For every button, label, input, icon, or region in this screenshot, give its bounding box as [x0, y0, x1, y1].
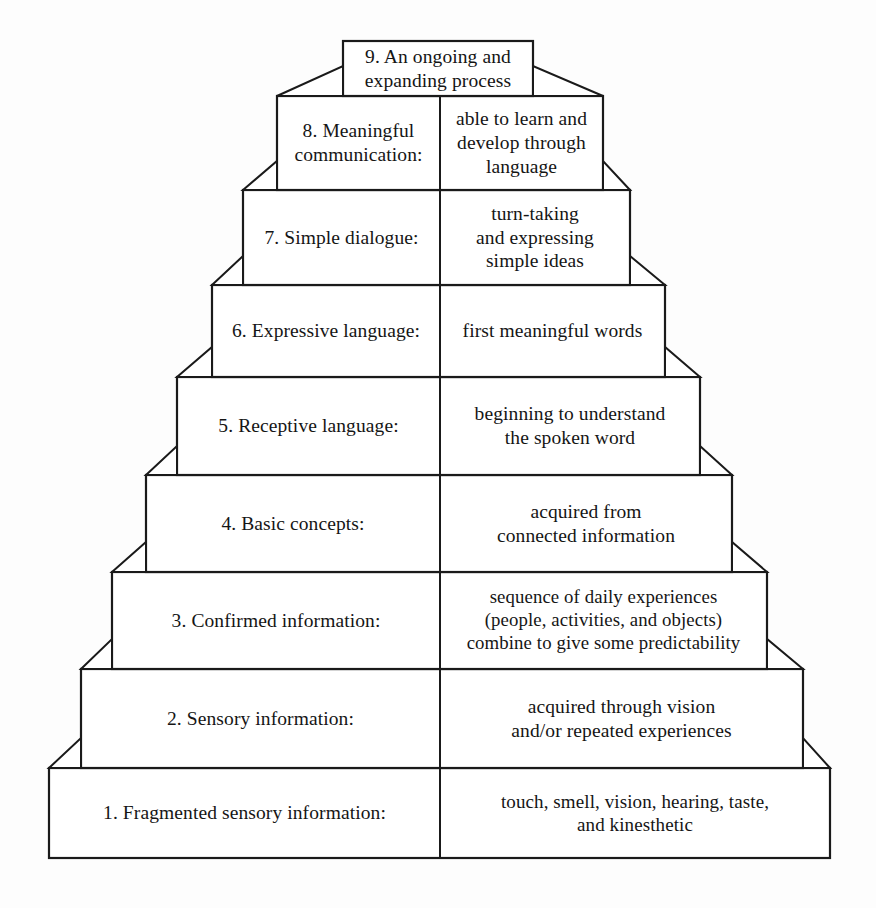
tier-2-label-text: 2. Sensory information: [87, 707, 434, 731]
tier-8-desc-line-3: language [445, 155, 598, 179]
tier-4-desc-line-2: connected information [445, 524, 727, 548]
tier-7-description: turn-taking and expressing simple ideas [440, 190, 630, 285]
tier-6-label: 6. Expressive language: [212, 285, 440, 377]
tier-2-desc-line-2: and/or repeated experiences [445, 719, 798, 743]
tier-5-desc-line-1: beginning to understand [445, 402, 695, 426]
tier-5-left-wedge [146, 446, 177, 475]
tier-3-right-wedge [767, 639, 803, 669]
tier-3-label: 3. Confirmed information: [112, 572, 440, 669]
tier-1-label: 1. Fragmented sensory information: [49, 768, 440, 858]
tier-7-desc-line-1: turn-taking [445, 202, 625, 226]
tier-8-label-line-2: communication: [283, 143, 434, 167]
tier-2-left-wedge [49, 738, 81, 768]
tier-4-description: acquired from connected information [440, 475, 732, 572]
tier-4-desc-line-1: acquired from [445, 500, 727, 524]
tier-2-desc-line-1: acquired through vision [445, 695, 798, 719]
tier-4-label: 4. Basic concepts: [146, 475, 440, 572]
tier-2-description: acquired through vision and/or repeated … [440, 669, 803, 768]
tier-5-description: beginning to understand the spoken word [440, 377, 700, 475]
tier-2-right-wedge [803, 738, 830, 768]
tier-9-right-wedge [533, 66, 603, 96]
tier-7-label: 7. Simple dialogue: [243, 190, 440, 285]
tier-8-label: 8. Meaningful communication: [277, 96, 440, 190]
tier-1-desc-line-2: and kinesthetic [445, 813, 825, 836]
tier-9-label: 9. An ongoing and expanding process [343, 41, 533, 96]
tier-6-description: first meaningful words [440, 285, 665, 377]
tier-3-desc-line-1: sequence of daily experiences [445, 586, 762, 609]
tier-8-description: able to learn and develop through langua… [440, 96, 603, 190]
tier-3-desc-line-2: (people, activities, and objects) [445, 609, 762, 632]
tier-5-desc-line-2: the spoken word [445, 426, 695, 450]
tier-8-desc-line-2: develop through [445, 131, 598, 155]
tier-7-left-wedge [212, 256, 243, 285]
tier-4-label-text: 4. Basic concepts: [152, 512, 434, 536]
tier-3-description: sequence of daily experiences (people, a… [440, 572, 767, 669]
tier-7-desc-line-2: and expressing [445, 226, 625, 250]
tier-9-left-wedge [277, 66, 343, 96]
tier-1-desc-line-1: touch, smell, vision, hearing, taste, [445, 790, 825, 813]
pyramid-diagram: 9. An ongoing and expanding process 8. M… [0, 0, 876, 908]
tier-6-left-wedge [177, 347, 212, 377]
tier-2-label: 2. Sensory information: [81, 669, 440, 768]
tier-7-desc-line-3: simple ideas [445, 249, 625, 273]
tier-6-desc-line-1: first meaningful words [445, 319, 660, 343]
tier-1-label-text: 1. Fragmented sensory information: [55, 801, 434, 825]
tier-6-label-text: 6. Expressive language: [218, 319, 434, 343]
tier-3-left-wedge [81, 639, 112, 669]
tier-8-label-line-1: 8. Meaningful [283, 119, 434, 143]
tier-8-left-wedge [243, 161, 277, 190]
tier-8-desc-line-1: able to learn and [445, 107, 598, 131]
tier-5-right-wedge [700, 446, 732, 475]
tier-9-label-line-2: expanding process [349, 69, 527, 93]
tier-4-left-wedge [112, 542, 146, 572]
tier-3-label-text: 3. Confirmed information: [118, 609, 434, 633]
tier-4-right-wedge [732, 542, 767, 572]
tier-9-label-line-1: 9. An ongoing and [349, 45, 527, 69]
tier-6-right-wedge [665, 347, 700, 377]
tier-7-label-text: 7. Simple dialogue: [249, 226, 434, 250]
tier-5-label: 5. Receptive language: [177, 377, 440, 475]
tier-5-label-text: 5. Receptive language: [183, 414, 434, 438]
tier-8-right-wedge [603, 161, 630, 190]
tier-1-description: touch, smell, vision, hearing, taste, an… [440, 768, 830, 858]
tier-3-desc-line-3: combine to give some predictability [445, 632, 762, 655]
tier-7-right-wedge [630, 256, 665, 285]
